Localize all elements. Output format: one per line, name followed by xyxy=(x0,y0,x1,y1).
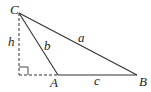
altitude-label-h: h xyxy=(8,34,15,49)
side-label-c: c xyxy=(94,73,100,88)
side-b-line xyxy=(19,13,58,75)
vertex-label-A: A xyxy=(49,75,58,90)
right-angle-marker xyxy=(19,67,28,75)
side-label-a: a xyxy=(78,30,85,45)
side-label-b: b xyxy=(44,38,51,53)
vertex-label-C: C xyxy=(10,2,19,17)
triangle-diagram: C A B h b a c xyxy=(0,0,151,92)
vertex-label-B: B xyxy=(139,74,147,89)
